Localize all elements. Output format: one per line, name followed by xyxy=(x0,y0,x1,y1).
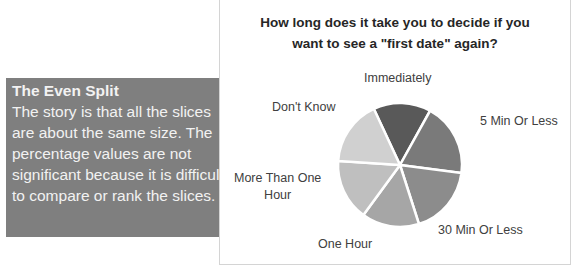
label-5-min-or-less: 5 Min Or Less xyxy=(480,113,558,130)
label-dont-know: Don't Know xyxy=(272,99,336,116)
callout-title: The Even Split xyxy=(12,80,227,101)
label-30-min-or-less: 30 Min Or Less xyxy=(438,222,523,239)
chart-area: How long does it take you to decide if y… xyxy=(219,0,571,265)
callout-text: The Even Split The story is that all the… xyxy=(12,80,227,206)
label-immediately: Immediately xyxy=(364,70,431,87)
label-one-hour: One Hour xyxy=(318,236,372,253)
callout-body: The story is that all the slices are abo… xyxy=(12,103,224,204)
label-more-than-one-hour: More Than One Hour xyxy=(234,170,321,204)
